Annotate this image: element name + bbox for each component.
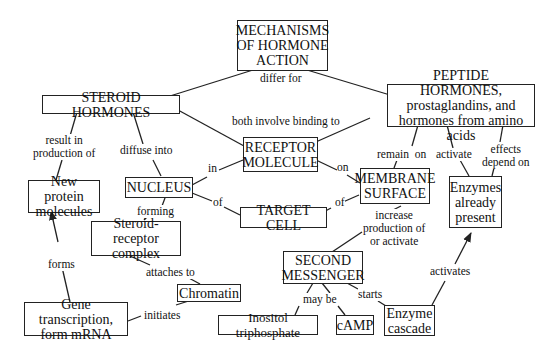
link-label-may-be: may be xyxy=(303,293,337,306)
node-chromatin: Chromatin xyxy=(177,284,241,302)
node-target-cell: TARGET CELL xyxy=(240,207,327,228)
node-enzymes-already-present: Enzymes already present xyxy=(449,176,502,228)
node-new-protein-molecules: New protein molecules xyxy=(28,180,100,213)
link-label-initiates: initiates xyxy=(144,309,180,322)
link-label-attaches-to: attaches to xyxy=(146,266,195,279)
link-label-starts: starts xyxy=(358,288,382,301)
node-membrane-surface: MEMBRANE SURFACE xyxy=(360,168,430,204)
node-receptor-molecule: RECEPTOR MOLECULE xyxy=(243,137,318,172)
node-inositol-triphosphate: Inositol triphosphate xyxy=(218,315,318,335)
concept-map: MECHANISMS OF HORMONE ACTION STEROID HOR… xyxy=(0,0,558,359)
link-label-forms: forms xyxy=(48,258,75,271)
link-label-result-in: result in production of xyxy=(33,134,95,160)
link-label-in: in xyxy=(208,162,217,175)
link-label-on: on xyxy=(337,161,349,174)
node-mechanisms-of-hormone-action: MECHANISMS OF HORMONE ACTION xyxy=(237,20,328,71)
node-gene-transcription: Gene transcription, form mRNA xyxy=(24,302,128,336)
link-label-activates: activates xyxy=(430,265,470,278)
link-label-forming: forming xyxy=(137,205,174,218)
link-label-of-left: of xyxy=(213,196,223,209)
link-label-increase-production: increase production of or activate xyxy=(363,209,425,248)
node-enzyme-cascade: Enzyme cascade xyxy=(384,305,435,336)
link-label-differ-for: differ for xyxy=(260,72,302,85)
link-label-of-right: of xyxy=(335,196,345,209)
link-label-remain-on: remain on xyxy=(377,148,426,161)
link-label-activate: activate xyxy=(436,148,472,161)
node-steroid-receptor-complex: Steroid-receptor complex xyxy=(91,221,181,256)
link-label-effects-depend-on: effects depend on xyxy=(482,143,530,169)
node-nucleus: NUCLEUS xyxy=(125,177,193,198)
link-label-both-involve: both involve binding to xyxy=(232,115,340,128)
node-second-messenger: SECOND MESSENGER xyxy=(283,251,363,284)
node-steroid-hormones: STEROID HORMONES xyxy=(42,95,180,114)
node-camp: cAMP xyxy=(336,315,374,335)
link-label-diffuse-into: diffuse into xyxy=(120,144,173,157)
node-peptide-hormones: PEPTIDE HORMONES, prostaglandins, and ho… xyxy=(387,84,535,127)
